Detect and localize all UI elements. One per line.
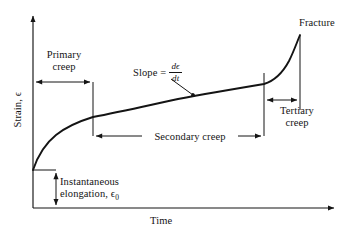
y-axis-label: Strain, ϵ [12, 78, 24, 142]
primary-creep-label-line1: Primary [47, 49, 82, 60]
instantaneous-elongation-indicator [33, 170, 56, 205]
primary-creep-label-line2: creep [52, 61, 75, 72]
tertiary-creep-label-line1: Tertiary [280, 105, 314, 116]
slope-annotation: Slope = dϵ dt [133, 62, 182, 83]
instantaneous-elongation-line1: Instantaneous [60, 176, 119, 187]
instantaneous-elongation-line2: elongation, [60, 188, 111, 199]
slope-denominator: dt [171, 74, 180, 84]
tertiary-creep-label-line2: creep [285, 117, 308, 128]
creep-curve-figure: Strain, ϵ Time Primary creep Secondary c… [0, 0, 355, 236]
x-axis-label: Time [150, 215, 202, 227]
fracture-label: Fracture [299, 17, 355, 29]
instantaneous-elongation-label: Instantaneous elongation, ϵ0 [60, 176, 164, 199]
slope-numerator: dϵ [171, 62, 181, 72]
primary-creep-label: Primary creep [38, 49, 90, 72]
slope-prefix-text: Slope = [133, 67, 166, 79]
instantaneous-elongation-subscript: 0 [115, 193, 119, 202]
slope-fraction: dϵ dt [169, 62, 182, 83]
tertiary-creep-label: Tertiary creep [270, 105, 324, 128]
secondary-creep-label: Secondary creep [144, 131, 236, 143]
stage-dividers [93, 35, 300, 136]
